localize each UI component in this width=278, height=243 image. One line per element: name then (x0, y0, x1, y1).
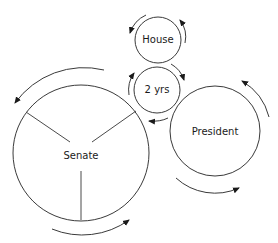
house-label: House (142, 34, 173, 45)
term-label: 2 yrs (145, 84, 170, 95)
senate-divider-1 (26, 112, 70, 142)
president-arrow-bottom-icon (176, 178, 239, 193)
president-label: President (192, 126, 239, 137)
president-to-senate-arrow-icon (149, 118, 168, 121)
term-arrow-right-icon (171, 64, 184, 80)
senate-arrow-bottom-icon (52, 220, 129, 235)
term-node: 2 yrs (134, 67, 180, 113)
house-arrow-left-icon (130, 15, 146, 33)
senate-label: Senate (63, 150, 98, 161)
president-node: President (170, 86, 260, 176)
cycle-diagram: House 2 yrs Senate President (0, 0, 278, 243)
term-arrow-left-icon (129, 73, 134, 95)
senate-node: Senate (13, 85, 149, 221)
house-node: House (135, 17, 181, 63)
senate-divider-2 (92, 111, 136, 142)
